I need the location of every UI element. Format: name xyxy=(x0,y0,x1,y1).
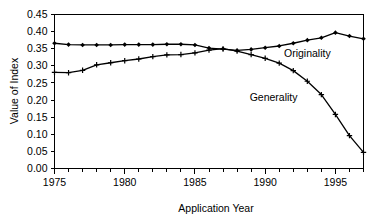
y-axis-title: Value of Index xyxy=(8,57,20,124)
x-tick-label: 1975 xyxy=(43,176,67,188)
series-label-originality: Originality xyxy=(284,47,331,59)
y-tick-label: 0.30 xyxy=(27,59,48,71)
chart-container: 0.000.050.100.150.200.250.300.350.400.45… xyxy=(0,0,379,221)
x-tick-label: 1990 xyxy=(254,176,278,188)
x-tick-label: 1985 xyxy=(183,176,207,188)
chart-background xyxy=(0,0,379,221)
x-axis-title: Application Year xyxy=(178,202,254,214)
y-tick-label: 0.20 xyxy=(27,94,48,106)
y-tick-label: 0.10 xyxy=(27,128,48,140)
y-tick-label: 0.45 xyxy=(27,8,48,20)
y-tick-label: 0.00 xyxy=(27,162,48,174)
x-tick-label: 1995 xyxy=(324,176,348,188)
line-chart: 0.000.050.100.150.200.250.300.350.400.45… xyxy=(0,0,379,221)
y-tick-label: 0.15 xyxy=(27,111,48,123)
series-label-generality: Generality xyxy=(250,91,299,103)
y-tick-label: 0.35 xyxy=(27,42,48,54)
y-tick-label: 0.05 xyxy=(27,145,48,157)
y-tick-label: 0.25 xyxy=(27,77,48,89)
x-tick-label: 1980 xyxy=(113,176,137,188)
y-tick-label: 0.40 xyxy=(27,25,48,37)
